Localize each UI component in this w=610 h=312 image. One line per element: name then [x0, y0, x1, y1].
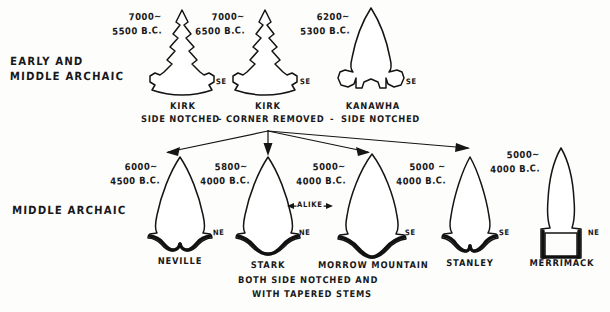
point-name-stanley: STANLEY	[440, 258, 500, 268]
point-name-neville: NEVILLE	[148, 256, 212, 266]
date-line-2: 4000 B.C.	[490, 161, 540, 176]
date-line-1: 6200~	[300, 9, 350, 24]
point-subtitle-kirk-side-notched: SIDE NOTCHED	[141, 114, 220, 124]
date-line-1: 5000~	[296, 159, 346, 174]
date-line-1: 5800~	[200, 159, 248, 174]
point-name-kirk-side-notched: KIRK	[155, 101, 211, 111]
date-stark: 5800~ 4000 B.C.	[200, 159, 249, 188]
date-kirk-corner-removed: 7000~ 6500 B.C.	[195, 9, 246, 39]
region-tag-kanawha: SE	[406, 78, 417, 86]
point-shape-merrimack	[541, 148, 581, 258]
date-kirk-side-notched: 7000~ 5500 B.C.	[112, 9, 163, 39]
date-line-1: 7000~	[195, 9, 245, 24]
point-name-kanawha: KANAWHA	[343, 101, 403, 111]
date-kanawha: 6200~ 5300 B.C.	[300, 9, 351, 39]
period-label-line-1: EARLY AND	[10, 54, 125, 69]
date-line-1: 6000~	[110, 159, 158, 174]
date-line-2: 4500 B.C.	[110, 173, 158, 188]
region-tag-kirk-side-notched: SE	[216, 78, 227, 86]
point-subtitle-kanawha: SIDE NOTCHED	[341, 114, 420, 124]
bottom-caption-line-1: BOTH SIDE NOTCHED AND	[238, 273, 378, 287]
region-tag-kirk-corner-removed: SE	[300, 78, 311, 86]
region-tag-merrimack: NE	[588, 229, 600, 237]
date-stanley: 5000 ~ 4000 B.C.	[396, 159, 447, 189]
region-tag-stark: NE	[299, 229, 311, 237]
date-neville: 6000~ 4500 B.C.	[110, 159, 159, 188]
date-line-2: 4000 B.C.	[396, 173, 446, 188]
date-line-2: 4000 B.C.	[296, 173, 346, 188]
period-label-early-middle-archaic: EARLY AND MIDDLE ARCHAIC	[10, 54, 125, 84]
subtitle-dash-left: -	[218, 114, 222, 124]
date-line-2: 5300 B.C.	[300, 23, 350, 38]
date-line-2: 5500 B.C.	[112, 23, 162, 38]
date-line-1: 5000 ~	[396, 159, 446, 174]
point-name-kirk-corner-removed: KIRK	[240, 101, 296, 111]
point-subtitle-kirk-corner-removed: CORNER REMOVED	[226, 114, 325, 124]
region-tag-morrow-mountain: SE	[405, 229, 416, 237]
date-line-2: 6500 B.C.	[195, 23, 245, 38]
period-label-line-2: MIDDLE ARCHAIC	[10, 69, 125, 84]
bottom-caption-line-2: WITH TAPERED STEMS	[252, 287, 372, 301]
period-label-middle-archaic: MIDDLE ARCHAIC	[12, 203, 127, 218]
subtitle-dash-right: -	[330, 114, 334, 124]
point-name-merrimack: MERRIMACK	[526, 258, 598, 268]
date-merrimack: 5000~ 4000 B.C.	[490, 147, 541, 177]
date-line-1: 5000~	[490, 147, 540, 162]
date-morrow-mountain: 5000~ 4000 B.C.	[296, 159, 347, 189]
projectile-point-typology-diagram: EARLY AND MIDDLE ARCHAIC 7000~ 5500 B.C.…	[0, 0, 610, 312]
region-tag-neville: NE	[213, 229, 225, 237]
date-line-2: 4000 B.C.	[200, 173, 248, 188]
descent-arrows	[166, 131, 470, 156]
date-line-1: 7000~	[112, 9, 162, 24]
point-name-morrow-mountain: MORROW MOUNTAIN	[318, 260, 426, 270]
point-name-stark: STARK	[240, 260, 296, 270]
region-tag-stanley: SE	[499, 229, 510, 237]
alike-annotation: ALIKE	[297, 201, 323, 209]
